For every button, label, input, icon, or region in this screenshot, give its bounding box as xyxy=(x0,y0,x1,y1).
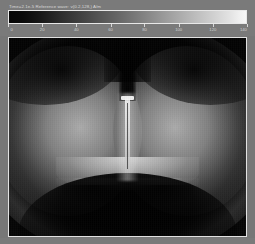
colorbar-title: Time=2.1e-5 Reference wave: v(0.2,128,) … xyxy=(9,4,219,10)
figure-root: Time=2.1e-5 Reference wave: v(0.2,128,) … xyxy=(0,0,255,244)
colorbar-tick-label: 120 xyxy=(209,27,216,33)
colorbar-tick-label: 140 xyxy=(240,27,247,33)
colorbar-tick xyxy=(247,24,248,27)
mesh-texture-horizontal xyxy=(9,38,246,236)
colorbar-gradient xyxy=(9,11,246,23)
figure-footer xyxy=(0,238,255,244)
colorbar-tick-label: 100 xyxy=(175,27,182,33)
field-heatmap xyxy=(9,38,246,236)
colorbar-block: Time=2.1e-5 Reference wave: v(0.2,128,) … xyxy=(0,0,255,36)
colorbar-tick-label: 60 xyxy=(108,27,113,33)
colorbar-tick-label: 40 xyxy=(74,27,79,33)
colorbar-axis: 0 20 40 60 80 100 120 140 xyxy=(8,24,247,36)
colorbar-tick-label: 20 xyxy=(40,27,45,33)
colorbar-tick-label: 80 xyxy=(142,27,147,33)
colorbar-tick xyxy=(8,24,9,27)
colorbar-tick-label: 0 xyxy=(10,27,12,33)
colorbar-frame xyxy=(8,10,247,24)
plot-area xyxy=(8,37,247,237)
